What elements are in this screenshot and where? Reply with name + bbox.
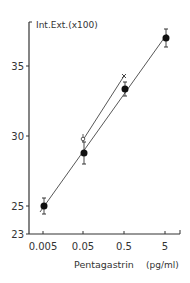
chart: 35 30 25 23 0.005 0.05 0.5 5 Int.Ext.(x1… <box>0 0 190 283</box>
series-1-point <box>41 198 48 214</box>
series-1-point <box>163 29 170 47</box>
x-tick-label: 5 <box>162 241 168 252</box>
series-2-point <box>81 134 85 142</box>
y-tick-label: 30 <box>11 131 24 142</box>
series-2-point <box>122 74 126 78</box>
x-tick-label: 0.005 <box>29 241 58 252</box>
y-tick-label: 23 <box>11 229 24 240</box>
series-2-line <box>83 76 124 140</box>
x-axis-unit: (pg/ml) <box>146 260 179 270</box>
series-1-point <box>81 142 88 164</box>
y-tick-label: 35 <box>11 61 24 72</box>
x-axis-title: Pentagastrin <box>74 259 134 270</box>
series-1-line <box>40 34 167 212</box>
x-tick-label: 0.5 <box>116 241 132 252</box>
y-axis-title: Int.Ext.(x100) <box>36 20 98 30</box>
series-1-point <box>122 82 129 96</box>
x-tick-label: 0.05 <box>72 241 94 252</box>
y-tick-label: 25 <box>11 201 24 212</box>
